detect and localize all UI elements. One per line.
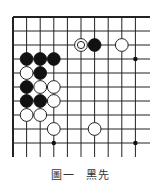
figure-caption: 圖一黑先 — [0, 166, 160, 182]
to-play-label: 黑先 — [86, 166, 109, 182]
marked-white-stone — [75, 39, 88, 52]
black-stone — [88, 39, 101, 52]
star-point — [133, 57, 137, 61]
star-point — [52, 141, 56, 145]
black-stone — [47, 53, 60, 66]
white-stone — [47, 81, 60, 94]
black-stone — [20, 53, 33, 66]
white-stone — [47, 95, 60, 108]
black-stone — [34, 53, 47, 66]
white-stone — [115, 39, 128, 52]
white-stone — [20, 67, 33, 80]
black-stone — [34, 95, 47, 108]
white-stone — [88, 123, 101, 136]
white-stone — [34, 81, 47, 94]
figure-label: 圖一 — [51, 166, 74, 182]
white-stone — [20, 109, 33, 122]
go-board — [0, 0, 160, 160]
white-stone — [47, 123, 60, 136]
white-stone — [34, 109, 47, 122]
black-stone — [34, 67, 47, 80]
black-stone — [20, 95, 33, 108]
star-point — [133, 141, 137, 145]
black-stone — [20, 81, 33, 94]
